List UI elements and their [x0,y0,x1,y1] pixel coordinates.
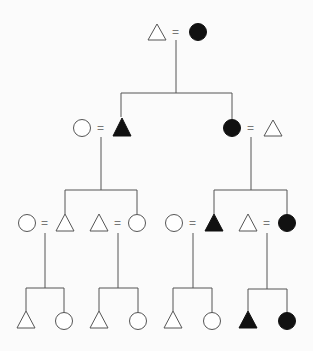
male-triangle-icon [264,120,282,136]
male-filled-triangle-icon [239,311,257,328]
female-circle-icon [74,120,91,137]
female-filled-circle-icon [279,313,296,330]
male-filled-triangle-icon [205,214,223,231]
couple-gen3-d: = [239,214,296,232]
marriage-equals: = [263,216,270,230]
female-filled-circle-icon [279,215,296,232]
kinship-diagram: = = = = = = = [0,0,313,351]
couple-gen2-right: = [224,120,283,137]
couple-gen3-b: = [90,214,146,232]
siblings-gen4-c [164,311,221,330]
siblings-gen4-a [17,311,73,330]
female-circle-icon [129,215,146,232]
marriage-equals: = [189,216,196,230]
female-filled-circle-icon [224,120,241,137]
couple-gen1: = [148,24,207,41]
female-circle-icon [166,215,183,232]
male-triangle-icon [148,24,166,40]
female-circle-icon [56,313,73,330]
female-filled-circle-icon [190,24,207,41]
male-triangle-icon [164,311,182,328]
male-filled-triangle-icon [113,118,131,136]
marriage-equals: = [172,25,179,39]
female-circle-icon [130,313,147,330]
male-triangle-icon [90,311,108,328]
female-circle-icon [19,215,36,232]
male-triangle-icon [239,214,257,231]
marriage-equals: = [114,216,121,230]
marriage-equals: = [247,121,254,135]
male-triangle-icon [90,214,108,231]
female-circle-icon [204,313,221,330]
couple-gen2-left: = [74,118,132,137]
marriage-equals: = [97,121,104,135]
couple-gen3-a: = [19,214,75,232]
siblings-gen4-d [239,311,296,330]
couple-gen3-c: = [166,214,224,232]
male-triangle-icon [56,214,74,231]
marriage-equals: = [41,216,48,230]
male-triangle-icon [17,311,35,328]
siblings-gen4-b [90,311,147,330]
